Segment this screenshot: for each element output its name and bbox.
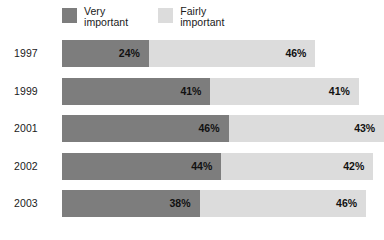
row-year-label: 2002 [14,153,54,180]
bar-segment-very-important: 44% [62,153,221,180]
bar-segment-very-important: 41% [62,78,210,105]
row-year-label: 2003 [14,190,54,217]
legend-label-very-important: Very important [84,6,128,28]
bar-segment-very-important: 38% [62,190,200,217]
stacked-bar: 46% 43% [62,115,384,142]
stacked-bar: 41% 41% [62,78,359,105]
legend-swatch-very-important [62,8,77,23]
bar-segment-fairly-important: 46% [200,190,367,217]
bar-segment-value: 42% [343,153,364,180]
legend-entry-very-important: Very important [62,6,128,28]
row-year-label: 1999 [14,78,54,105]
bar-segment-value: 38% [170,190,191,217]
chart-row: 1997 24% 46% [0,40,373,78]
row-year-label: 1997 [14,40,54,67]
bar-segment-fairly-important: 43% [229,115,384,142]
bar-segment-value: 46% [285,40,306,67]
chart-row: 2002 44% 42% [0,153,373,191]
row-year-label: 2001 [14,115,54,142]
legend-entry-fairly-important: Fairly important [158,6,224,28]
stacked-bar: 44% 42% [62,153,373,180]
bar-segment-fairly-important: 41% [210,78,358,105]
chart-legend: Very important Fairly important [62,6,224,36]
bar-segment-very-important: 24% [62,40,149,67]
bar-segment-value: 41% [329,78,350,105]
bar-segment-value: 46% [199,115,220,142]
bar-segment-value: 44% [191,153,212,180]
bar-segment-value: 41% [180,78,201,105]
bar-segment-fairly-important: 42% [221,153,373,180]
chart-plot-area: 1997 24% 46% 1999 41% 41% [0,40,373,228]
bar-segment-fairly-important: 46% [149,40,316,67]
legend-swatch-fairly-important [158,8,173,23]
bar-segment-very-important: 46% [62,115,229,142]
legend-label-fairly-important: Fairly important [180,6,224,28]
bar-segment-value: 24% [119,40,140,67]
chart-row: 2001 46% 43% [0,115,373,153]
chart-row: 2003 38% 46% [0,190,373,228]
bar-segment-value: 43% [354,115,375,142]
bar-segment-value: 46% [336,190,357,217]
chart-row: 1999 41% 41% [0,78,373,116]
stacked-bar: 38% 46% [62,190,366,217]
stacked-bar: 24% 46% [62,40,315,67]
